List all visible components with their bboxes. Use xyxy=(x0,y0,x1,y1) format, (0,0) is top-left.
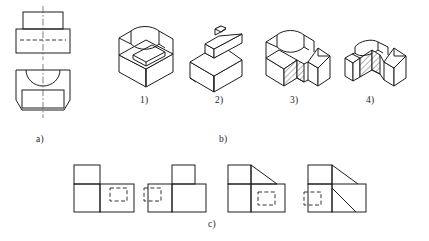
panel-a-top-view xyxy=(16,6,70,60)
drawing-canvas xyxy=(0,0,429,241)
option-label-3: 3) xyxy=(290,95,298,105)
panel-b-isometric-option-1 xyxy=(119,27,173,88)
panel-a-label: a) xyxy=(36,134,44,144)
panel-c-ortho-option-3 xyxy=(228,165,285,212)
panel-c-label: c) xyxy=(208,219,216,229)
technical-drawing-figure: a) 1) 2) 3) 4) b) c) xyxy=(0,0,429,241)
panel-a-front-view xyxy=(16,64,70,118)
panel-c-ortho-option-4 xyxy=(304,165,366,212)
panel-c-ortho-option-1 xyxy=(74,165,134,212)
panel-b-isometric-option-4 xyxy=(345,40,406,86)
panel-b-label: b) xyxy=(219,134,227,144)
option-label-4: 4) xyxy=(366,95,374,105)
panel-b-isometric-option-2 xyxy=(190,26,242,92)
panel-b-isometric-option-3 xyxy=(266,31,330,87)
option-label-1: 1) xyxy=(140,95,148,105)
panel-c-ortho-option-2 xyxy=(144,165,206,212)
option-label-2: 2) xyxy=(215,95,223,105)
